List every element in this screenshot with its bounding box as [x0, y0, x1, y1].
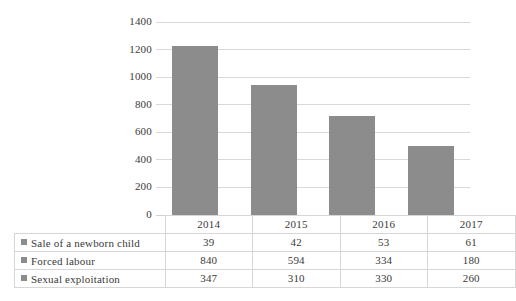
table-cell-value: 334 [340, 252, 428, 270]
legend-swatch-icon [21, 275, 27, 281]
table-row-label-3: Sexual exploitation [15, 270, 166, 288]
table-cell-value: 39 [165, 234, 253, 252]
table-cell-value: 330 [340, 270, 428, 288]
table-header-year: 2016 [340, 216, 428, 234]
table-row-label-1: Sale of a newborn child [15, 234, 166, 252]
series-label: Sexual exploitation [31, 272, 120, 284]
table-cell-value: 347 [165, 270, 253, 288]
table-header-year: 2015 [253, 216, 341, 234]
table-header-year: 2014 [165, 216, 253, 234]
bar-segment [408, 207, 454, 215]
bar-2016 [329, 116, 375, 215]
bar-2014 [172, 46, 218, 215]
y-axis-tick-label: 200 [112, 181, 152, 192]
bar-segment [329, 162, 375, 208]
chart-data-table: 2014201520162017Sale of a newborn child3… [14, 215, 516, 288]
table-header-year: 2017 [428, 216, 516, 234]
legend-swatch-icon [21, 239, 27, 245]
y-axis-tick-label: 1400 [112, 16, 152, 27]
legend-swatch-icon [21, 257, 27, 263]
bar-segment [329, 116, 375, 161]
y-axis-tick-label: 600 [112, 126, 152, 137]
table-cell-value: 310 [253, 270, 341, 288]
data-table-body: 2014201520162017Sale of a newborn child3… [15, 216, 516, 288]
plot-area: 1400120010008006004002000 [0, 0, 492, 222]
y-axis-tick-label: 1000 [112, 71, 152, 82]
bar-segment [408, 182, 454, 207]
bar-segment [408, 146, 454, 182]
series-label: Sale of a newborn child [31, 236, 140, 248]
bar-segment [172, 46, 218, 94]
bar-2017 [408, 146, 454, 215]
bar-segment [251, 85, 297, 128]
bar-segment [251, 127, 297, 209]
table-cell-value: 180 [428, 252, 516, 270]
table-row: Sexual exploitation347310330260 [15, 270, 516, 288]
bar-segment [172, 94, 218, 210]
table-row: Forced labour840594334180 [15, 252, 516, 270]
series-label: Forced labour [31, 254, 95, 266]
table-cell-value: 594 [253, 252, 341, 270]
table-cell-value: 53 [340, 234, 428, 252]
y-axis-tick-label: 400 [112, 154, 152, 165]
table-row-label-2: Forced labour [15, 252, 166, 270]
bar-2015 [251, 85, 297, 215]
table-cell-value: 61 [428, 234, 516, 252]
table-row: Sale of a newborn child39425361 [15, 234, 516, 252]
table-header-row: 2014201520162017 [15, 216, 516, 234]
y-axis-tick-label: 1200 [112, 44, 152, 55]
y-axis-tick-label: 800 [112, 99, 152, 110]
bar-segment [329, 208, 375, 215]
gridline [156, 22, 470, 23]
table-cell-value: 840 [165, 252, 253, 270]
table-cell-value: 42 [253, 234, 341, 252]
table-cell-value: 260 [428, 270, 516, 288]
table-corner-cell [15, 216, 166, 234]
